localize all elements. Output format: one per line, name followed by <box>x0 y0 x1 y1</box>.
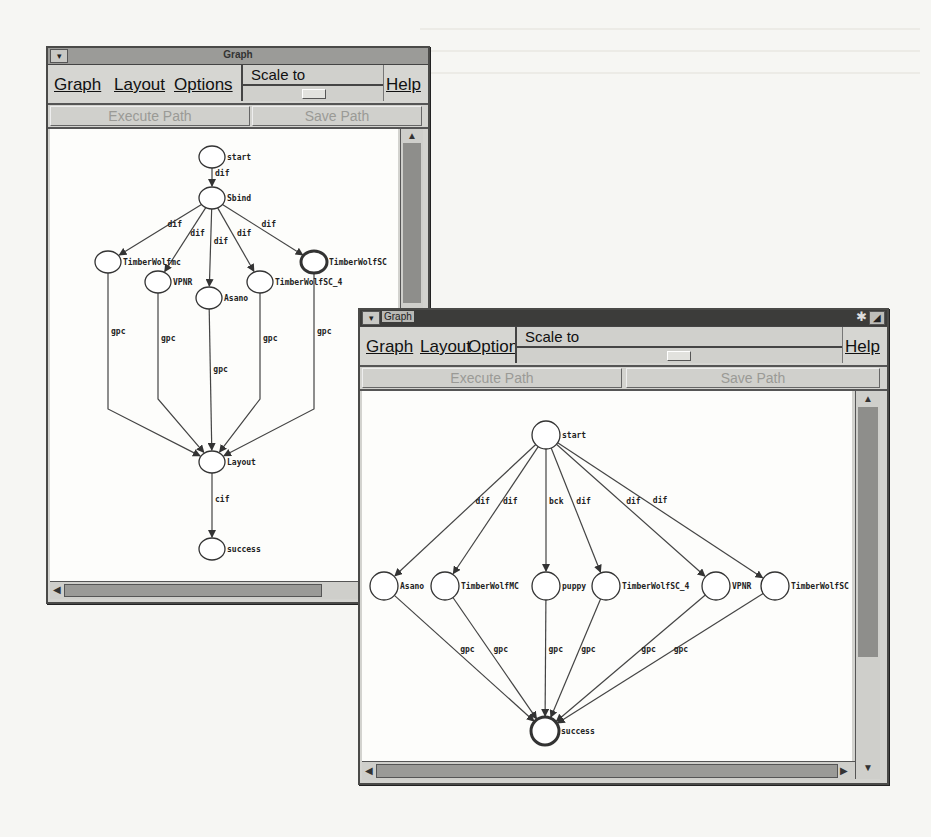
menu-graph[interactable]: Graph <box>54 75 101 95</box>
edge-label: bck <box>549 497 564 506</box>
horizontal-scrollbar[interactable]: ◀ <box>50 581 398 599</box>
edge-label: gpc <box>494 645 509 654</box>
graph-node[interactable] <box>370 572 398 600</box>
menu-layout[interactable]: Layout <box>420 337 471 357</box>
graph-node[interactable] <box>95 251 121 273</box>
horizontal-scrollbar[interactable]: ◀ ▶ <box>362 761 855 780</box>
edge-label: gpc <box>317 327 332 336</box>
menu-layout[interactable]: Layout <box>114 75 165 95</box>
star-icon: ✱ <box>856 310 867 324</box>
edge-label: gpc <box>263 334 278 343</box>
graph-node[interactable] <box>531 717 559 745</box>
graph-node[interactable] <box>532 421 560 449</box>
graph-node[interactable] <box>761 572 789 600</box>
menu-layout-label: Layout <box>114 75 165 94</box>
menu-help[interactable]: Help <box>845 337 880 357</box>
menu-graph-label: Graph <box>54 75 101 94</box>
graph-node[interactable] <box>247 271 273 293</box>
graph-node[interactable] <box>199 187 225 209</box>
edge-label: dif <box>626 496 641 506</box>
title-bar[interactable]: ▾ Graph ✱ ◢ <box>360 310 887 327</box>
menu-bar: Graph Layout Options Scale to Help <box>360 327 887 367</box>
graph-edge <box>556 595 705 721</box>
graph-edge <box>556 444 704 576</box>
edge-label: dif <box>653 495 668 505</box>
vertical-scroll-thumb[interactable] <box>858 407 878 657</box>
execute-path-button[interactable]: Execute Path <box>50 106 250 126</box>
graph-node[interactable] <box>301 251 327 273</box>
menu-bar: Graph Layout Options Scale to Help <box>48 65 428 105</box>
title-bar[interactable]: ▾ Graph <box>48 48 428 65</box>
scroll-up-arrow-icon[interactable]: ▲ <box>407 131 417 141</box>
save-path-button[interactable]: Save Path <box>252 106 422 126</box>
scroll-right-arrow-icon[interactable]: ▶ <box>840 766 848 776</box>
graph-node[interactable] <box>532 572 560 600</box>
edge-label: gpc <box>213 365 228 374</box>
graph-svg: difdifbckdifdifdifgpcgpcgpcgpcgpcgpcstar… <box>362 391 852 761</box>
menu-help[interactable]: Help <box>386 75 421 95</box>
window-title: Graph <box>382 311 414 322</box>
node-label: start <box>562 431 586 440</box>
execute-path-button[interactable]: Execute Path <box>362 368 622 388</box>
maximize-button[interactable]: ◢ <box>869 311 885 325</box>
edge-label: dif <box>215 168 230 178</box>
menu-options[interactable]: Options <box>174 75 233 95</box>
graph-node[interactable] <box>199 451 225 473</box>
node-label: success <box>561 727 595 736</box>
menu-graph[interactable]: Graph <box>366 337 413 357</box>
scroll-left-arrow-icon[interactable]: ◀ <box>53 585 61 595</box>
scroll-left-arrow-icon[interactable]: ◀ <box>365 766 373 776</box>
node-label: Asano <box>400 582 424 591</box>
graph-edge <box>108 273 200 456</box>
node-label: VPNR <box>732 582 751 591</box>
scale-control: Scale to <box>515 327 843 363</box>
graph-canvas[interactable]: difdifbckdifdifdifgpcgpcgpcgpcgpcgpcstar… <box>362 391 852 761</box>
menu-help-label: Help <box>845 337 880 356</box>
graph-svg: difdifdifdifdifdifgpcgpcgpcgpcgpccifstar… <box>50 129 398 581</box>
node-label: Layout <box>227 458 256 467</box>
edge-label: cif <box>215 494 230 504</box>
graph-node[interactable] <box>592 572 620 600</box>
graph-edge <box>222 205 302 255</box>
edge-label: gpc <box>460 645 475 654</box>
scroll-down-arrow-icon[interactable]: ▼ <box>863 763 873 773</box>
scroll-up-arrow-icon[interactable]: ▲ <box>863 394 873 404</box>
edge-label: gpc <box>581 645 596 654</box>
node-label: VPNR <box>173 278 192 287</box>
graph-node[interactable] <box>196 287 222 309</box>
scale-control: Scale to <box>241 65 384 101</box>
scale-slider-thumb[interactable] <box>667 351 691 361</box>
scale-slider[interactable] <box>243 84 383 101</box>
menu-graph-label: Graph <box>366 337 413 356</box>
graph-node[interactable] <box>702 572 730 600</box>
page-background-line <box>420 50 920 52</box>
scale-label: Scale to <box>251 66 305 83</box>
window-menu-button[interactable]: ▾ <box>362 311 380 325</box>
vertical-scroll-thumb[interactable] <box>403 143 421 303</box>
page-background-line <box>420 28 920 30</box>
node-label: TimberWolfSC <box>329 257 387 267</box>
node-label: TimberWolfSC_4 <box>622 581 690 591</box>
edge-label: dif <box>503 496 518 506</box>
graph-node[interactable] <box>199 146 225 168</box>
scale-slider[interactable] <box>517 346 842 363</box>
save-path-button[interactable]: Save Path <box>626 368 880 388</box>
scale-slider-thumb[interactable] <box>302 89 326 99</box>
graph-node[interactable] <box>431 572 459 600</box>
edge-label: dif <box>475 496 490 506</box>
horizontal-scroll-thumb[interactable] <box>64 584 322 597</box>
graph-node[interactable] <box>145 271 171 293</box>
edge-label: gpc <box>674 645 689 654</box>
window-title: Graph <box>48 49 428 60</box>
graph-node[interactable] <box>199 538 225 560</box>
node-label: TimberWolfMC <box>461 581 519 591</box>
node-label: success <box>227 545 261 554</box>
graph-canvas[interactable]: difdifdifdifdifdifgpcgpcgpcgpcgpccifstar… <box>50 129 398 581</box>
edge-label: gpc <box>111 327 126 336</box>
node-label: TimberWolfmc <box>123 257 181 267</box>
node-label: puppy <box>562 582 586 591</box>
menu-layout-label: Layout <box>420 337 471 356</box>
vertical-scrollbar[interactable]: ▲ ▼ <box>855 391 880 779</box>
node-label: TimberWolfSC <box>791 581 849 591</box>
horizontal-scroll-thumb[interactable] <box>376 764 838 778</box>
